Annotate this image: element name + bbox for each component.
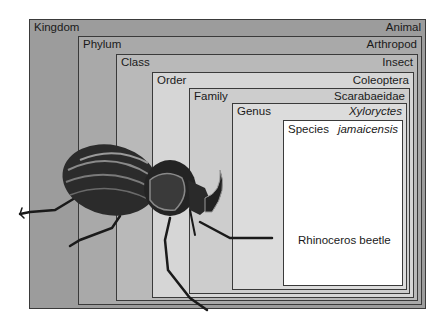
rhinoceros-beetle-illustration bbox=[0, 0, 443, 329]
